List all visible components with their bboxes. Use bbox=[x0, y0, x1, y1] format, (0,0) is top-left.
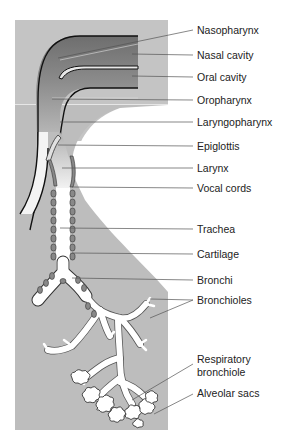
label-respiratory-bronchiole-1: Respiratory bbox=[197, 353, 251, 365]
label-cartilage: Cartilage bbox=[197, 248, 239, 260]
respiratory-diagram: Nasopharynx Nasal cavity Oral cavity Oro… bbox=[0, 0, 283, 444]
label-nasal-cavity: Nasal cavity bbox=[197, 49, 254, 61]
label-trachea: Trachea bbox=[197, 223, 235, 235]
label-nasopharynx: Nasopharynx bbox=[197, 24, 260, 36]
labels: Nasopharynx Nasal cavity Oral cavity Oro… bbox=[197, 24, 273, 399]
label-oral-cavity: Oral cavity bbox=[197, 71, 247, 83]
label-alveolar-sacs: Alveolar sacs bbox=[197, 387, 259, 399]
label-vocal-cords: Vocal cords bbox=[197, 182, 251, 194]
label-bronchi: Bronchi bbox=[197, 274, 233, 286]
label-epiglottis: Epiglottis bbox=[197, 140, 240, 152]
label-oropharynx: Oropharynx bbox=[197, 94, 253, 106]
label-laryngopharynx: Laryngopharynx bbox=[197, 116, 273, 128]
label-larynx: Larynx bbox=[197, 162, 229, 174]
label-bronchioles: Bronchioles bbox=[197, 294, 252, 306]
label-respiratory-bronchiole-2: bronchiole bbox=[197, 366, 246, 378]
